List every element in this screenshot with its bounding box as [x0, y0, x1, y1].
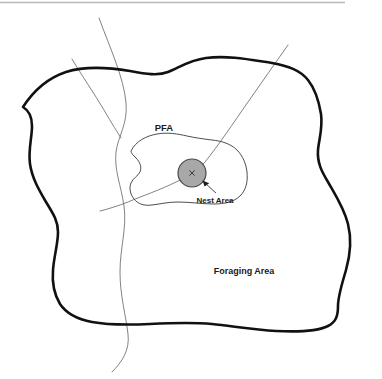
foraging-area-boundary	[23, 57, 350, 331]
diagram-canvas: PFA Nest Area Foraging Area	[0, 0, 382, 379]
pfa-label: PFA	[155, 122, 174, 133]
nest-area-leader-line	[206, 184, 216, 193]
habitat-diagram: PFA Nest Area Foraging Area	[0, 0, 382, 379]
stream-northwest-branch	[72, 59, 121, 138]
foraging-area-label: Foraging Area	[214, 266, 276, 276]
stream-lines-group	[72, 18, 288, 372]
nest-area-label: Nest Area	[196, 196, 234, 205]
